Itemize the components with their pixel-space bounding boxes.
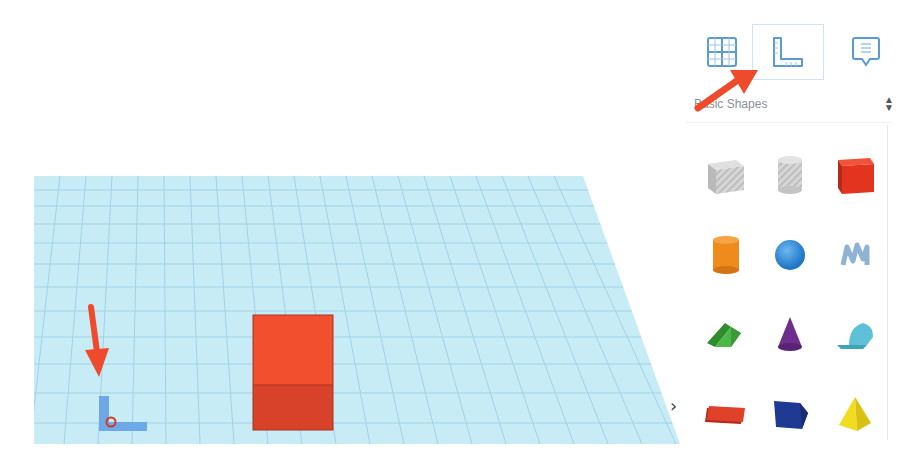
polygon-icon: [768, 395, 812, 435]
red-cube[interactable]: [253, 315, 333, 430]
tab-workplane[interactable]: [686, 24, 758, 80]
shape-category-select[interactable]: Basic Shapes ▲▼: [694, 92, 894, 116]
grid-icon: [706, 36, 738, 68]
workplane-viewport[interactable]: [0, 0, 690, 467]
ruler-icon: [770, 34, 806, 70]
shape-scribble[interactable]: [822, 215, 887, 295]
shape-cylinder[interactable]: [692, 215, 757, 295]
shape-text[interactable]: [692, 375, 757, 455]
shape-pyramid[interactable]: [822, 375, 887, 455]
tab-ruler[interactable]: [752, 24, 824, 80]
collapse-panel-chevron[interactable]: ›: [670, 395, 677, 416]
shape-sphere[interactable]: [757, 215, 822, 295]
shape-polygon[interactable]: [757, 375, 822, 455]
cylinder-hole-icon: [770, 152, 810, 198]
box-icon: [832, 152, 878, 198]
category-label: Basic Shapes: [694, 97, 767, 111]
shape-roof[interactable]: [692, 295, 757, 375]
shape-box-hole[interactable]: [692, 135, 757, 215]
pyramid-icon: [833, 393, 877, 437]
category-divider: [686, 122, 892, 123]
shape-cone[interactable]: [757, 295, 822, 375]
scribble-icon: [835, 235, 875, 275]
cylinder-icon: [705, 232, 745, 278]
shape-round-roof[interactable]: [822, 295, 887, 375]
box-hole-icon: [702, 152, 748, 198]
shapes-grid: [692, 135, 887, 455]
text-shape-icon: [703, 400, 747, 430]
workplane-grid[interactable]: [0, 0, 690, 467]
sphere-icon: [770, 235, 810, 275]
cone-icon: [770, 313, 810, 357]
updown-icon: ▲▼: [884, 96, 894, 112]
shape-box[interactable]: [822, 135, 887, 215]
round-roof-icon: [833, 315, 877, 355]
roof-icon: [703, 315, 747, 355]
tab-notes[interactable]: [830, 24, 902, 80]
shape-cylinder-hole[interactable]: [757, 135, 822, 215]
shapes-panel: Basic Shapes ▲▼: [680, 0, 912, 467]
panel-scroll-divider: [887, 125, 888, 440]
note-icon: [851, 35, 881, 69]
